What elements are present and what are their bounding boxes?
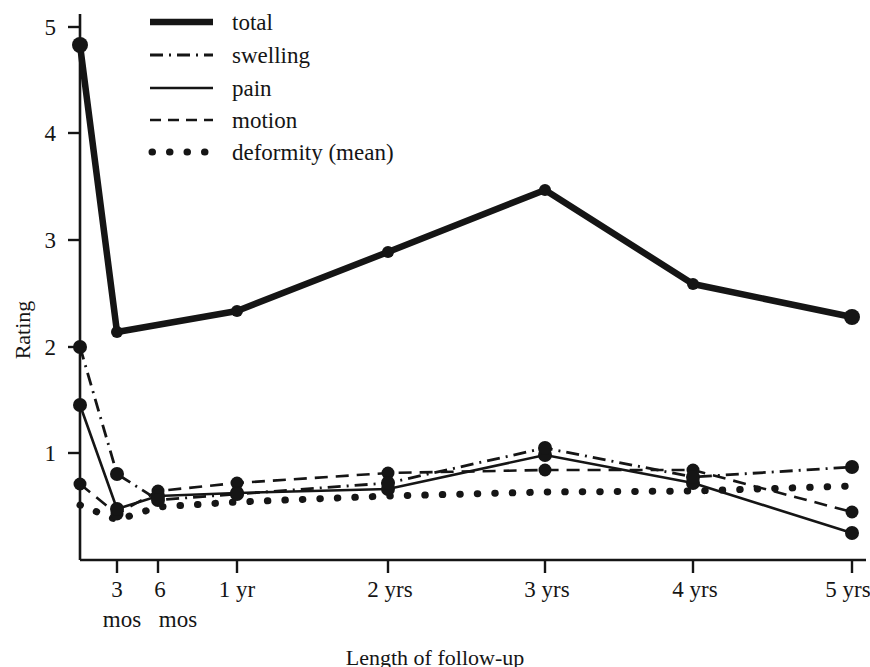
legend-entry-total: total bbox=[150, 10, 273, 35]
legend-entry-motion: motion bbox=[150, 108, 298, 133]
line-chart-svg: 5 4 3 2 1 Rating 3 6 1 yr 2 yrs 3 yrs 4 … bbox=[0, 0, 870, 667]
pain-line bbox=[80, 405, 852, 533]
legend-label-motion: motion bbox=[232, 108, 298, 133]
x-tick-label-5yrs: 5 yrs bbox=[825, 577, 870, 602]
legend-label-swelling: swelling bbox=[232, 43, 310, 68]
y-tick-label-5: 5 bbox=[45, 15, 57, 40]
y-tick-label-4: 4 bbox=[45, 121, 57, 146]
x-tick-sublabel-mos-2: mos bbox=[159, 607, 197, 632]
legend-entry-pain: pain bbox=[150, 76, 272, 101]
x-tick-label-1yr: 1 yr bbox=[219, 577, 256, 602]
y-tick-label-3: 3 bbox=[45, 228, 57, 253]
chart-figure: 5 4 3 2 1 Rating 3 6 1 yr 2 yrs 3 yrs 4 … bbox=[0, 0, 870, 667]
x-tick-label-3mos: 3 bbox=[111, 577, 123, 602]
x-axis-ticks bbox=[117, 560, 852, 573]
x-tick-label-6mos: 6 bbox=[154, 577, 166, 602]
series-pain bbox=[73, 398, 859, 540]
x-tick-label-4yrs: 4 yrs bbox=[672, 577, 717, 602]
axis-lines bbox=[80, 14, 866, 560]
series-total bbox=[72, 37, 860, 338]
series-deformity bbox=[80, 486, 852, 520]
legend-entry-swelling: swelling bbox=[150, 43, 310, 68]
y-tick-label-1: 1 bbox=[45, 441, 57, 466]
swelling-line bbox=[80, 347, 852, 500]
legend-label-pain: pain bbox=[232, 76, 272, 101]
x-axis-tick-labels: 3 6 1 yr 2 yrs 3 yrs 4 yrs 5 yrs mos mos bbox=[103, 577, 870, 632]
legend-entry-deformity: deformity (mean) bbox=[152, 140, 394, 165]
y-axis-ticks bbox=[68, 27, 80, 453]
y-axis-title: Rating bbox=[10, 301, 35, 360]
y-tick-label-2: 2 bbox=[45, 335, 57, 360]
x-tick-label-2yrs: 2 yrs bbox=[367, 577, 412, 602]
x-axis-title: Length of follow-up bbox=[346, 645, 524, 667]
pain-markers bbox=[73, 398, 859, 540]
x-tick-label-3yrs: 3 yrs bbox=[524, 577, 569, 602]
x-tick-sublabel-mos-1: mos bbox=[103, 607, 141, 632]
legend-label-total: total bbox=[232, 10, 273, 35]
deformity-line bbox=[80, 486, 852, 520]
chart-legend: total swelling pain motion deformity (me… bbox=[150, 10, 394, 165]
y-axis-tick-labels: 5 4 3 2 1 bbox=[45, 15, 57, 466]
legend-label-deformity: deformity (mean) bbox=[232, 140, 394, 165]
